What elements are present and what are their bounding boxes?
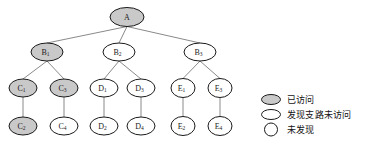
tree-edge: [47, 61, 64, 79]
tree-node-b2[interactable]: B2: [103, 43, 135, 61]
tree-node-c1[interactable]: C1: [9, 79, 37, 97]
legend-item-discovered: 发现支路未访问: [258, 107, 375, 122]
tree-node-e3[interactable]: E3: [208, 79, 232, 98]
tree-edge: [119, 61, 141, 79]
tree-edge: [183, 61, 200, 79]
nodes-group: AB1B2B3C1C3D1D3E1E3C2C4D2D4E2E4: [9, 8, 232, 136]
tree-node-d3[interactable]: D3: [127, 79, 155, 97]
tree-edge: [47, 27, 127, 44]
tree-edge: [200, 61, 220, 79]
node-label: A: [124, 13, 130, 22]
search-tree-figure: AB1B2B3C1C3D1D3E1E3C2C4D2D4E2E4 已访问发现支路未…: [0, 0, 375, 153]
tree-node-d1[interactable]: D1: [90, 79, 118, 97]
tree-edge: [127, 27, 200, 44]
legend-label: 已访问: [287, 93, 315, 106]
tree-node-c2[interactable]: C2: [9, 117, 37, 135]
legend-item-undiscovered: 未发现: [258, 122, 375, 137]
legend: 已访问发现支路未访问未发现: [258, 92, 375, 137]
tree-node-d4[interactable]: D4: [127, 117, 155, 135]
tree-node-c4[interactable]: C4: [50, 117, 78, 135]
tree-edge: [119, 27, 127, 44]
edges-group: [23, 27, 220, 118]
tree-edge: [104, 61, 119, 79]
legend-swatch-ellipse-icon: [258, 92, 284, 107]
tree-node-b1[interactable]: B1: [31, 43, 63, 61]
legend-swatch-ellipse-icon: [258, 107, 284, 122]
tree-node-e1[interactable]: E1: [171, 79, 195, 98]
tree-node-c3[interactable]: C3: [50, 79, 78, 97]
tree-edge: [23, 61, 47, 79]
tree-node-b3[interactable]: B3: [184, 43, 216, 61]
tree-node-a[interactable]: A: [110, 8, 144, 27]
tree-node-e2[interactable]: E2: [171, 117, 195, 136]
legend-label: 未发现: [287, 123, 315, 136]
legend-label: 发现支路未访问: [287, 108, 351, 121]
tree-node-d2[interactable]: D2: [90, 117, 118, 135]
legend-swatch-circle-icon: [258, 122, 284, 137]
legend-item-visited: 已访问: [258, 92, 375, 107]
tree-node-e4[interactable]: E4: [208, 117, 232, 136]
